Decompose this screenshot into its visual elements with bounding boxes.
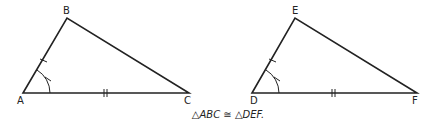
angle-a-arc [37, 70, 50, 93]
angle-d-arc [266, 70, 279, 93]
vertex-label-e: E [292, 5, 298, 16]
triangle-abc: A B C [17, 5, 191, 106]
vertex-label-d: D [250, 95, 258, 106]
vertex-label-f: F [412, 95, 418, 106]
triangle-def: D E F [250, 5, 418, 106]
vertex-label-b: B [63, 5, 70, 16]
congruent-triangles-diagram: A B C D E F △ABC ≅ △DEF. [0, 0, 437, 126]
congruence-caption: △ABC ≅ △DEF. [192, 109, 264, 120]
vertex-label-a: A [17, 95, 24, 106]
vertex-label-c: C [184, 95, 191, 106]
